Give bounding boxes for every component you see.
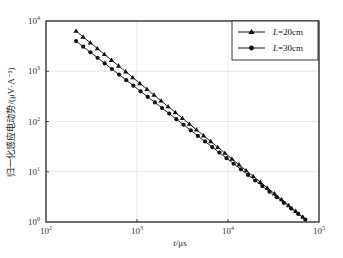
circle-marker-icon <box>146 95 150 99</box>
chart: 102103104105 100101102103104 t/μs 归一化感应电… <box>0 0 343 258</box>
y-axis-title: 归一化感应电动势/(μV·A⁻¹) <box>5 67 16 176</box>
y-tick-label: 102 <box>28 116 40 127</box>
circle-marker-icon <box>253 178 257 182</box>
x-tick-label: 103 <box>131 225 143 236</box>
circle-marker-icon <box>189 128 193 132</box>
svg-text:L=30cm: L=30cm <box>272 43 303 53</box>
circle-marker-icon <box>224 156 228 160</box>
circle-marker-icon <box>181 123 185 127</box>
circle-marker-icon <box>246 173 250 177</box>
circle-marker-icon <box>217 151 221 155</box>
circle-marker-icon <box>275 195 279 199</box>
x-axis-title: t/μs <box>173 238 187 248</box>
circle-marker-icon <box>260 184 264 188</box>
circle-marker-icon <box>153 100 157 104</box>
circle-marker-icon <box>303 217 307 221</box>
circle-marker-icon <box>131 84 135 88</box>
circle-marker-icon <box>232 162 236 166</box>
circle-marker-icon <box>196 134 200 138</box>
circle-marker-icon <box>160 106 164 110</box>
circle-marker-icon <box>296 212 300 216</box>
y-tick-label: 101 <box>28 166 40 177</box>
circle-marker-icon <box>81 45 85 49</box>
circle-marker-icon <box>249 46 254 51</box>
circle-marker-icon <box>88 50 92 54</box>
svg-text:L=20cm: L=20cm <box>272 27 303 37</box>
circle-marker-icon <box>110 67 114 71</box>
circle-marker-icon <box>117 72 121 76</box>
circle-marker-icon <box>95 56 99 60</box>
y-tick-label: 103 <box>28 65 40 76</box>
circle-marker-icon <box>267 190 271 194</box>
circle-marker-icon <box>138 89 142 93</box>
circle-marker-icon <box>74 39 78 43</box>
series-l30cm <box>74 39 307 222</box>
circle-marker-icon <box>289 206 293 210</box>
circle-marker-icon <box>203 139 207 143</box>
y-tick-label: 104 <box>28 15 40 26</box>
x-tick-label: 105 <box>313 225 325 236</box>
circle-marker-icon <box>167 111 171 115</box>
circle-marker-icon <box>174 117 178 121</box>
x-tick-label: 104 <box>222 225 234 236</box>
circle-marker-icon <box>239 167 243 171</box>
circle-marker-icon <box>282 201 286 205</box>
legend: L=20cm L=30cm <box>232 21 318 60</box>
y-tick-label: 100 <box>28 216 40 227</box>
circle-marker-icon <box>103 61 107 65</box>
triangle-marker-icon <box>73 28 78 32</box>
circle-marker-icon <box>210 145 214 149</box>
x-tick-label: 102 <box>40 225 52 236</box>
circle-marker-icon <box>124 78 128 82</box>
